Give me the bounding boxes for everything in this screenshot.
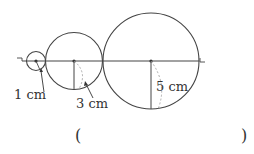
medium-circle [46,33,103,99]
end-marker-icon [200,58,205,62]
small-radius-label: 1 cm [14,87,46,102]
medium-radius-label: 3 cm [76,96,108,111]
small-circle [27,52,46,93]
answer-open-paren: ( [75,126,81,145]
large-radius-label: 5 cm [156,79,188,94]
start-marker-icon [17,58,22,61]
answer-close-paren: ) [241,126,247,145]
circles-diagram: 1 cm 3 cm 5 cm ( ) [0,0,254,154]
